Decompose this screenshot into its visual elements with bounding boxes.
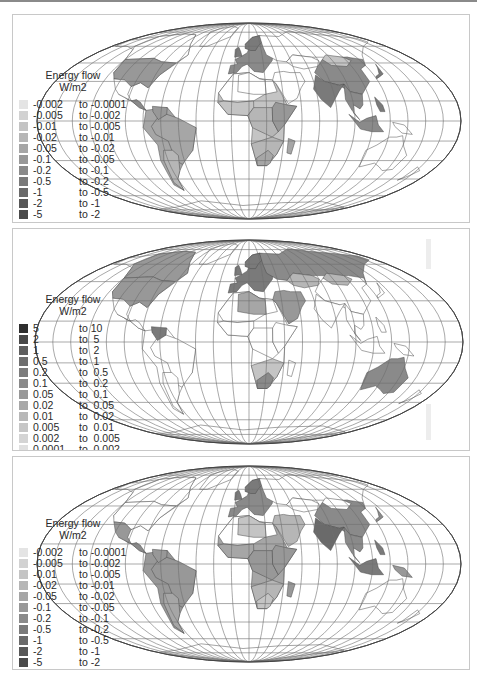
legend-swatch <box>19 368 28 377</box>
legend-swatch <box>19 346 28 355</box>
legend-swatch <box>19 658 28 667</box>
map-panel-3: Energy flow W/m2 -0.002to -0.0001-0.005t… <box>12 456 470 670</box>
legend-swatch <box>19 625 28 634</box>
legend-item: -5to -2 <box>19 657 126 668</box>
scan-artifact <box>426 404 431 440</box>
legend-swatch <box>19 379 28 388</box>
legend-unit: W/m2 <box>29 529 117 541</box>
legend-range-low: 2 <box>33 334 79 345</box>
legend-swatch <box>19 166 28 175</box>
legend-range-high: to -2 <box>79 657 100 668</box>
legend-swatch <box>19 434 28 443</box>
legend-item: 0.0001to 0.002 <box>19 444 120 451</box>
legend-range-low: 0.0001 <box>33 444 79 451</box>
legend-swatch <box>19 335 28 344</box>
legend-range-low: 5 <box>33 323 79 334</box>
legend-swatch <box>19 111 28 120</box>
legend-3: Energy flow W/m2 -0.002to -0.0001-0.005t… <box>19 517 126 668</box>
legend-swatch <box>19 581 28 590</box>
map-panel-1: Energy flow W/m2 -0.002to -0.0001-0.005t… <box>12 14 470 223</box>
legend-range-low: -5 <box>33 209 79 220</box>
legend-swatch <box>19 122 28 131</box>
legend-swatch <box>19 603 28 612</box>
map-panel-2: Energy flow W/m2 5to 102to 51to 20.5to 1… <box>12 228 470 451</box>
legend-unit: W/m2 <box>29 81 117 93</box>
legend-swatch <box>19 133 28 142</box>
legend-unit: W/m2 <box>29 305 117 317</box>
legend-swatch <box>19 636 28 645</box>
legend-1: Energy flow W/m2 -0.002to -0.0001-0.005t… <box>19 69 126 220</box>
legend-swatch <box>19 592 28 601</box>
legend-range-high: to 0.002 <box>79 444 120 451</box>
legend-title: Energy flow W/m2 <box>29 293 117 317</box>
legend-swatch <box>19 412 28 421</box>
legend-swatch <box>19 100 28 109</box>
legend-item: -5to -2 <box>19 209 126 220</box>
top-rule <box>0 0 477 2</box>
legend-range-low: -5 <box>33 657 79 668</box>
legend-rows: -0.002to -0.0001-0.005to -0.002-0.01to -… <box>19 99 126 220</box>
legend-swatch <box>19 357 28 366</box>
legend-swatch <box>19 199 28 208</box>
legend-swatch <box>19 570 28 579</box>
legend-swatch <box>19 188 28 197</box>
legend-2: Energy flow W/m2 5to 102to 51to 20.5to 1… <box>19 293 120 451</box>
legend-rows: -0.002to -0.0001-0.005to -0.002-0.01to -… <box>19 547 126 668</box>
legend-rows: 5to 102to 51to 20.5to 10.2to 0.50.1to 0.… <box>19 323 120 451</box>
legend-swatch <box>19 559 28 568</box>
legend-swatch <box>19 324 28 333</box>
legend-title: Energy flow W/m2 <box>29 517 117 541</box>
scan-artifact <box>426 239 431 269</box>
legend-swatch <box>19 445 28 451</box>
legend-title-line1: Energy flow <box>29 517 117 529</box>
legend-swatch <box>19 614 28 623</box>
legend-swatch <box>19 177 28 186</box>
legend-range-high: to -2 <box>79 209 100 220</box>
legend-swatch <box>19 210 28 219</box>
legend-swatch <box>19 401 28 410</box>
legend-swatch <box>19 548 28 557</box>
legend-title: Energy flow W/m2 <box>29 69 117 93</box>
legend-swatch <box>19 390 28 399</box>
legend-swatch <box>19 647 28 656</box>
legend-title-line1: Energy flow <box>29 293 117 305</box>
legend-swatch <box>19 144 28 153</box>
legend-swatch <box>19 155 28 164</box>
legend-title-line1: Energy flow <box>29 69 117 81</box>
legend-swatch <box>19 423 28 432</box>
